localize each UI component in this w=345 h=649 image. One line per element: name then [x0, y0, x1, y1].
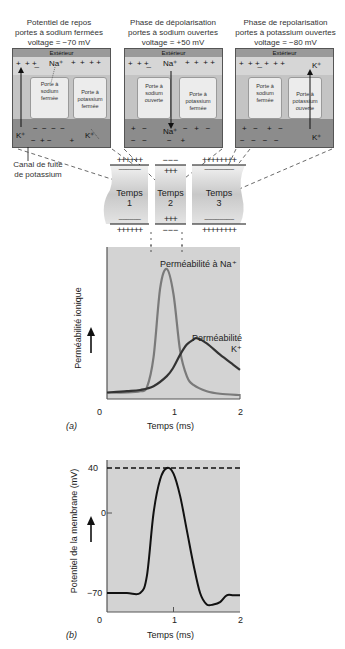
chart-b-y-tick-neg70: −70 — [87, 588, 102, 598]
chart-a-x-tick-2: 2 — [238, 407, 243, 417]
chart-a-ylabel: Perméabilité ionique — [73, 248, 83, 408]
axon-seg2-top-inner: +++ — [155, 166, 186, 176]
chart-a-x-tick-0: 0 — [97, 407, 102, 417]
chart-a-x-tick-1: 1 — [172, 407, 177, 417]
axon-seg2-label: Temps2 — [153, 188, 188, 208]
axon-seg3-top-outer: ++++++++ — [192, 155, 246, 165]
chart-a-series-na-label: Perméabilité à Na⁺ — [160, 259, 237, 269]
axon-seg1-top-outer: ++++++ — [110, 155, 149, 165]
axon-seg2-top-outer: −−− — [155, 155, 186, 165]
axon-seg1-label: Temps1 — [110, 188, 149, 208]
chart-b-y-tick-40: 40 — [88, 463, 98, 473]
axon-seg2-bottom-inner: +++ — [155, 214, 186, 224]
chart-b-x-tick-2: 2 — [238, 615, 243, 625]
axon-seg1-top-inner: −−−−−− — [110, 165, 149, 174]
chart-b-y-tick-0: 0 — [101, 508, 106, 518]
axon-seg3-label: Temps3 — [192, 188, 246, 208]
axon-seg1-bottom-outer: ++++++ — [110, 225, 149, 235]
axon-diagram: ++++++ −−−−−− Temps1 −−−−−− ++++++ −−− +… — [0, 0, 345, 250]
axon-seg1-bottom-inner: −−−−−− — [110, 215, 149, 224]
axon-seg3-top-inner: −−−−−−−− — [192, 165, 246, 174]
chart-a-xlabel: Temps (ms) — [147, 421, 194, 431]
axon-seg2-bottom-outer: −−− — [155, 225, 186, 235]
chart-b-ylabel: Potentiel de la membrane (mV) — [69, 451, 79, 611]
chart-b-xlabel: Temps (ms) — [147, 630, 194, 640]
chart-a-panel-label: (a) — [66, 421, 77, 431]
chart-b-panel-label: (b) — [66, 630, 77, 640]
chart-a-series-k-label: PerméabilitéK⁺ — [180, 333, 242, 355]
axon-seg3-bottom-inner: −−−−−−−− — [192, 215, 246, 224]
chart-b: 40 0 −70 0 1 2 Temps (ms) (b) Potentiel … — [0, 460, 345, 649]
chart-b-x-tick-0: 0 — [97, 615, 102, 625]
chart-a-plot — [0, 245, 345, 465]
chart-a: Perméabilité à Na⁺ PerméabilitéK⁺ 0 1 2 … — [0, 245, 345, 465]
axon-seg3-bottom-outer: ++++++++ — [192, 225, 246, 235]
chart-b-x-tick-1: 1 — [172, 615, 177, 625]
